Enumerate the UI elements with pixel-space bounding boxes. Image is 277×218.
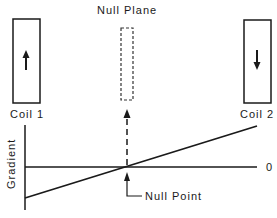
null-plane-box: [121, 28, 133, 100]
dashed-arrow-up-icon: [124, 109, 131, 165]
null-plane-label: Null Plane: [97, 5, 157, 16]
gradient-line: [25, 126, 257, 198]
elbow-arrow-up-icon: [124, 172, 142, 196]
coil2-label: Coil 2: [240, 109, 274, 120]
zero-label: 0: [266, 162, 273, 173]
arrow-down-icon: [254, 50, 261, 70]
gradient-axis-label: Gradient: [6, 139, 17, 189]
coil1-label: Coil 1: [10, 109, 44, 120]
null-point-label: Null Point: [145, 191, 202, 202]
arrow-up-icon: [23, 50, 30, 70]
